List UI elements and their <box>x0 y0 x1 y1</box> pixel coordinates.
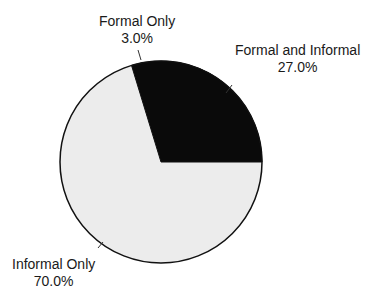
label-name: Formal and Informal <box>235 42 360 59</box>
label-name: Formal Only <box>99 13 175 30</box>
label-formal-and-informal: Formal and Informal 27.0% <box>235 42 360 76</box>
label-informal-only: Informal Only 70.0% <box>12 256 95 290</box>
label-formal-only: Formal Only 3.0% <box>99 13 175 47</box>
label-pct: 27.0% <box>235 59 360 76</box>
label-pct: 3.0% <box>99 30 175 47</box>
leader-formal-only <box>138 50 141 60</box>
label-name: Informal Only <box>12 256 95 273</box>
label-pct: 70.0% <box>12 273 95 290</box>
